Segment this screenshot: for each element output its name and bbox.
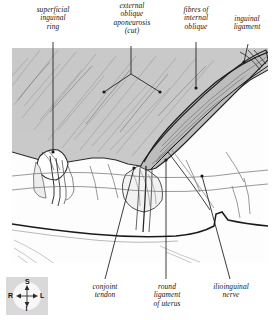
compass-label-superior: S (25, 278, 30, 285)
dissection-field (12, 48, 268, 284)
label-round-ligament-of-uterus: round ligament of uterus (138, 283, 196, 308)
label-conjoint-tendon: conjoint tendon (78, 283, 132, 300)
orientation-compass: S I R L (6, 277, 48, 315)
dissection-illustration (0, 0, 280, 320)
label-superficial-inguinal-ring: superficial inguinal ring (22, 6, 84, 31)
compass-label-left: L (40, 292, 44, 299)
compass-label-inferior: I (26, 305, 28, 312)
compass-label-right: R (8, 292, 13, 299)
label-inguinal-ligament: inguinal ligament (220, 15, 274, 32)
label-fibres-of-internal-oblique: fibres of internal oblique (172, 6, 220, 31)
anatomical-figure: superficial inguinal ring external obliq… (0, 0, 280, 320)
label-external-oblique-aponeurosis: external oblique aponeurosis (cut) (96, 2, 168, 36)
label-ilioinguinal-nerve: ilioinguinal nerve (200, 283, 262, 300)
